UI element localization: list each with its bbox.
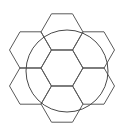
- hexagon-upper-left: [10, 32, 52, 68]
- hexagon-center: [41, 50, 83, 86]
- hexagon-top: [41, 14, 83, 50]
- hexagon-circle-diagram: [0, 0, 124, 135]
- hexagon-lower-left: [10, 68, 52, 104]
- overlay-circle: [26, 30, 108, 112]
- hexagon-upper-right: [73, 32, 115, 68]
- hexagon-bottom: [41, 86, 83, 122]
